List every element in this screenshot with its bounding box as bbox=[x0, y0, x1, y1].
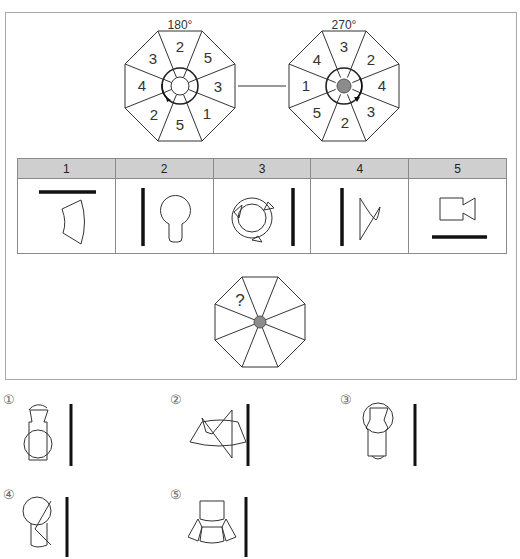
svg-text:2: 2 bbox=[176, 38, 184, 55]
clue-header-3: 3 bbox=[213, 159, 311, 179]
wheel-1: 2 5 3 1 5 2 4 3 bbox=[125, 31, 235, 141]
option-5-label: ⑤ bbox=[170, 487, 182, 502]
svg-text:3: 3 bbox=[367, 103, 375, 120]
wheels-diagram: 2 5 3 1 5 2 4 3 3 2 bbox=[0, 0, 520, 160]
clue-header-1: 1 bbox=[18, 159, 116, 179]
svg-text:5: 5 bbox=[313, 104, 321, 121]
wheel-1-center bbox=[171, 77, 189, 95]
option-4[interactable]: ④ bbox=[3, 487, 163, 559]
circular-arrows-icon bbox=[214, 180, 310, 252]
option-5-figure-icon bbox=[188, 489, 258, 559]
option-4-figure-icon bbox=[21, 489, 91, 559]
wheel-2: 3 2 4 3 2 5 1 4 bbox=[289, 31, 399, 141]
option-3-label: ③ bbox=[340, 392, 352, 407]
clue-cell-2 bbox=[115, 179, 213, 254]
option-4-label: ④ bbox=[3, 487, 15, 502]
svg-text:1: 1 bbox=[302, 77, 310, 94]
keyhole-icon bbox=[116, 180, 212, 252]
clue-cell-1 bbox=[18, 179, 116, 254]
question-wheel-center bbox=[254, 316, 266, 328]
option-2-label: ② bbox=[170, 392, 182, 407]
svg-text:3: 3 bbox=[149, 50, 157, 67]
option-1-figure-icon bbox=[21, 400, 91, 472]
option-2-figure-icon bbox=[188, 400, 258, 472]
svg-text:2: 2 bbox=[341, 114, 349, 131]
svg-text:2: 2 bbox=[367, 51, 375, 68]
arc-segment-icon bbox=[18, 180, 114, 252]
svg-text:4: 4 bbox=[378, 77, 386, 94]
svg-text:3: 3 bbox=[214, 78, 222, 95]
option-5[interactable]: ⑤ bbox=[170, 487, 330, 559]
option-2[interactable]: ② bbox=[170, 392, 330, 472]
cone-icon bbox=[312, 180, 408, 252]
option-3-figure-icon bbox=[358, 400, 428, 472]
option-1-label: ① bbox=[3, 392, 15, 407]
svg-text:1: 1 bbox=[203, 105, 211, 122]
clue-cell-4 bbox=[311, 179, 409, 254]
svg-text:2: 2 bbox=[150, 106, 158, 123]
question-mark: ? bbox=[235, 291, 244, 310]
wheel-2-center bbox=[337, 79, 351, 93]
clue-cell-3 bbox=[213, 179, 311, 254]
clue-table: 1 2 3 4 5 bbox=[17, 158, 507, 254]
option-1[interactable]: ① bbox=[3, 392, 163, 472]
svg-text:5: 5 bbox=[204, 49, 212, 66]
clue-header-4: 4 bbox=[311, 159, 409, 179]
svg-text:3: 3 bbox=[340, 38, 348, 55]
clue-header-5: 5 bbox=[409, 159, 507, 179]
svg-text:4: 4 bbox=[313, 51, 321, 68]
camera-icon bbox=[410, 180, 506, 252]
svg-text:4: 4 bbox=[138, 77, 146, 94]
question-wheel: ? bbox=[208, 272, 312, 376]
clue-header-2: 2 bbox=[115, 159, 213, 179]
clue-cell-5 bbox=[409, 179, 507, 254]
svg-text:5: 5 bbox=[176, 116, 184, 133]
option-3[interactable]: ③ bbox=[340, 392, 510, 472]
